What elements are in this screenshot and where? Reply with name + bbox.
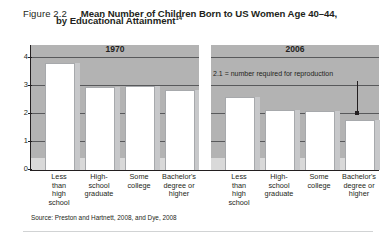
annotation-arrow-head-icon	[355, 111, 359, 115]
bar-1970-less-than-high-school	[45, 63, 75, 170]
bar-1970-bachelors-or-higher	[165, 90, 195, 170]
figure-title-line2: by Educational Attainment	[56, 15, 175, 26]
x-axis-line	[30, 170, 379, 171]
y-tick-label-0: 0	[19, 165, 28, 173]
bar-2006-bachelors-or-higher	[345, 120, 375, 170]
y-axis-line	[30, 45, 31, 170]
bar-1970-high-school-graduate	[85, 87, 115, 170]
y-tick-mark-4	[28, 57, 32, 58]
y-tick-mark-2	[28, 113, 32, 114]
y-tick-mark-3	[28, 85, 32, 86]
x-label-2006-bachelors-or-higher: Bachelor's degree or higher	[331, 173, 387, 199]
footnote-marker: 14	[175, 15, 182, 21]
bar-shadow-1970-2	[155, 86, 160, 170]
panel-title-1970: 1970	[31, 44, 199, 54]
bar-shadow-1970-0	[75, 63, 80, 170]
y-tick-label-4: 4	[19, 53, 28, 61]
bar-shadow-1970-1	[115, 87, 120, 170]
bar-2006-some-college	[305, 111, 335, 170]
reproduction-threshold-annotation: 2.1 = number required for reproduction	[213, 70, 333, 77]
bar-shadow-2006-3	[375, 120, 380, 170]
y-tick-label-3: 3	[19, 81, 28, 89]
bar-shadow-2006-1	[295, 110, 300, 170]
y-tick-label-1: 1	[19, 137, 28, 145]
bar-2006-high-school-graduate	[265, 110, 295, 170]
annotation-arrow-line	[357, 81, 358, 113]
x-label-1970-bachelors-or-higher: Bachelor's degree or higher	[151, 173, 207, 199]
bar-shadow-2006-0	[255, 97, 260, 170]
bar-1970-some-college	[125, 86, 155, 170]
bottom-divider	[23, 231, 373, 232]
bar-2006-less-than-high-school	[225, 97, 255, 170]
figure-container: Figure 2.2 Mean Number of Children Born …	[0, 0, 388, 238]
figure-title-line2-wrap: by Educational Attainment14	[56, 15, 182, 26]
panel-title-2006: 2006	[211, 44, 379, 54]
bar-shadow-2006-2	[335, 111, 340, 170]
y-tick-label-2: 2	[19, 109, 28, 117]
y-tick-mark-1	[28, 141, 32, 142]
source-note: Source: Preston and Hartnett, 2008, and …	[31, 214, 177, 221]
panel-separator	[199, 45, 211, 170]
y-tick-mark-0	[28, 169, 32, 170]
chart-plot-area: 4 3 2 1 0 1970 2006 2.1 =	[31, 45, 379, 170]
